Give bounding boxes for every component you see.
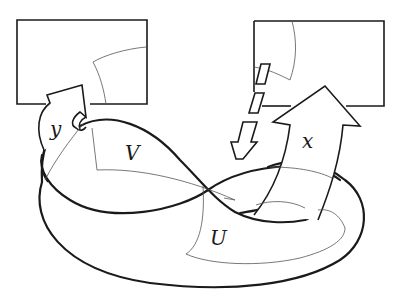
arrow-down-segmented (231, 64, 270, 159)
diagram-canvas: y V x U (0, 0, 398, 300)
region-v-boundary (92, 128, 235, 200)
label-x: x (302, 129, 313, 153)
label-y: y (49, 117, 62, 141)
label-u: U (210, 226, 228, 250)
arrow-y (39, 85, 86, 182)
label-v: V (125, 141, 142, 165)
